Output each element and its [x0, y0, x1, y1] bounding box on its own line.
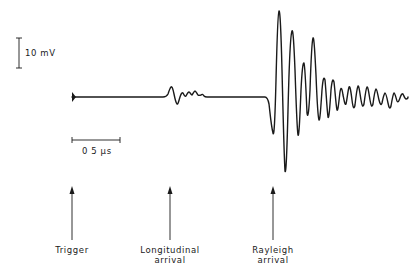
trigger-label: Trigger: [54, 245, 89, 255]
arrow-up-icon: [70, 186, 75, 194]
longitudinal-label-line1: Longitudinal: [140, 245, 200, 255]
rayleigh-label-line2: arrival: [257, 255, 288, 265]
time-scale-bar: 0 5 µs: [72, 137, 120, 156]
trigger-arrow: [70, 186, 75, 240]
time-scale-label: 0 5 µs: [82, 146, 112, 156]
voltage-scale-label: 10 mV: [25, 48, 56, 58]
longitudinal-arrow: [168, 186, 173, 240]
longitudinal-label-line2: arrival: [154, 255, 185, 265]
waveform-trace: [72, 11, 408, 172]
waveform-figure: 10 mV 0 5 µs Trigger Longitudinal arriva…: [0, 0, 419, 274]
voltage-scale-bar: 10 mV: [16, 38, 56, 68]
arrow-up-icon: [168, 186, 173, 194]
rayleigh-arrow: [271, 186, 276, 240]
arrow-up-icon: [271, 186, 276, 194]
rayleigh-label-line1: Rayleigh: [252, 245, 294, 255]
